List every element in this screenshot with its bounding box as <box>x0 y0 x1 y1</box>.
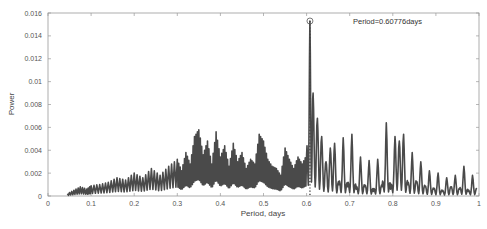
y-tick-label: 0.006 <box>24 124 42 131</box>
x-tick-label: 0.2 <box>129 200 139 207</box>
x-tick-label: 0.6 <box>302 200 312 207</box>
periodogram-chart: 00.0020.0040.0060.0080.010.0120.0140.016… <box>0 0 487 229</box>
y-tick-label: 0.01 <box>28 78 42 85</box>
x-tick-label: 0.7 <box>345 200 355 207</box>
y-tick-label: 0.008 <box>24 101 42 108</box>
x-tick-label: 0.5 <box>259 200 269 207</box>
y-tick-label: 0.016 <box>24 10 42 17</box>
x-tick-label: 0 <box>46 200 50 207</box>
x-axis-label: Period, days <box>241 209 285 218</box>
y-tick-label: 0.002 <box>24 170 42 177</box>
x-tick-label: 0.9 <box>431 200 441 207</box>
y-axis-label: Power <box>7 92 16 115</box>
x-tick-label: 1 <box>477 200 481 207</box>
y-tick-label: 0 <box>38 193 42 200</box>
x-tick-label: 0.4 <box>216 200 226 207</box>
y-tick-label: 0.014 <box>24 32 42 39</box>
y-tick-label: 0.004 <box>24 147 42 154</box>
peak-label: Period=0.60776days <box>353 17 422 26</box>
x-tick-label: 0.8 <box>388 200 398 207</box>
y-tick-label: 0.012 <box>24 55 42 62</box>
x-tick-label: 0.1 <box>86 200 96 207</box>
x-tick-label: 0.3 <box>172 200 182 207</box>
